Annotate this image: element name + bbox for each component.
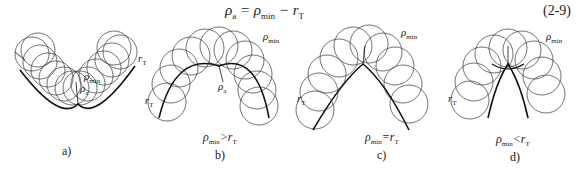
label-r-t: rT (448, 92, 457, 107)
caption-d: d) (510, 150, 520, 165)
figure-panel-a: ρmin ρa rT a) (0, 22, 145, 182)
label-rho-min: ρmin (263, 30, 279, 45)
figure-panel-b: ρmin ρa rT ρmin>rT b) (145, 22, 285, 182)
condition-d: ρmin<rT (496, 132, 530, 148)
label-rho-min: ρmin (546, 30, 562, 45)
minus-sign: − (275, 2, 293, 18)
equation-2-9: ρa = ρmin − rT (225, 2, 304, 21)
caption-a: a) (62, 144, 71, 159)
subscript: T (299, 11, 305, 21)
roller-envelope-diagram-a (0, 22, 145, 182)
label-rho-min: ρmin (401, 26, 417, 41)
figure-panel-d: ρmin rT ρmin<rT d) (430, 22, 579, 182)
condition-c: ρmin=rT (365, 130, 399, 146)
condition-b: ρmin>rT (203, 130, 237, 146)
caption-b: b) (215, 148, 225, 163)
subscript: min (261, 11, 275, 21)
label-rho-a: ρa (80, 82, 88, 97)
caption-c: c) (377, 148, 386, 163)
figure-panel-c: ρmin rT ρmin=rT c) (285, 22, 430, 182)
label-r-t: rT (145, 94, 154, 109)
label-r-t: rT (297, 92, 306, 107)
equation-number: (2-9) (543, 3, 571, 19)
equals-sign: = (236, 2, 254, 18)
rho-symbol: ρ (254, 2, 261, 18)
label-rho-a: ρa (218, 80, 226, 95)
roller-envelope-diagram-c (285, 22, 430, 182)
